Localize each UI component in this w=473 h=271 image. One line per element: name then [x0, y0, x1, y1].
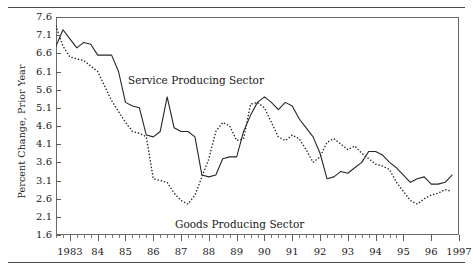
x-axis-minor-tick-mark — [258, 235, 259, 238]
figure-bottom-rule — [8, 262, 465, 263]
x-axis-minor-tick-mark — [390, 235, 391, 238]
x-axis-tick-mark — [320, 235, 321, 241]
y-axis-tick-mark — [56, 72, 61, 73]
plot-lines — [56, 17, 459, 235]
x-axis-tick-mark — [153, 235, 154, 241]
x-axis-tick-labels: 1983848586878889909192939495961997 — [0, 247, 473, 261]
x-axis-minor-tick-mark — [112, 235, 113, 238]
x-axis-minor-tick-mark — [167, 235, 168, 238]
x-axis-minor-tick-mark — [160, 235, 161, 238]
x-axis-tick-label: 93 — [341, 247, 354, 257]
y-axis-tick-labels: 1.62.12.63.13.64.14.65.15.66.16.67.17.6 — [14, 0, 52, 271]
y-axis-tick-mark — [56, 35, 61, 36]
x-axis-minor-tick-mark — [299, 235, 300, 238]
y-axis-tick-label: 4.6 — [18, 121, 52, 131]
x-axis-minor-tick-mark — [56, 235, 57, 238]
y-axis-tick-label: 4.1 — [18, 139, 52, 149]
x-axis-minor-tick-mark — [84, 235, 85, 238]
x-axis-tick-label: 94 — [369, 247, 382, 257]
x-axis-tick-mark — [237, 235, 238, 241]
x-axis-minor-tick-mark — [91, 235, 92, 238]
y-axis-tick-mark — [56, 17, 61, 18]
x-axis-tick-mark — [459, 235, 460, 241]
x-axis-minor-tick-mark — [119, 235, 120, 238]
x-axis-minor-tick-mark — [306, 235, 307, 238]
y-axis-tick-mark — [56, 53, 61, 54]
x-axis-minor-tick-mark — [216, 235, 217, 238]
x-axis-tick-mark — [209, 235, 210, 241]
y-axis-tick-label: 3.6 — [18, 157, 52, 167]
x-axis-minor-tick-mark — [355, 235, 356, 238]
x-axis-tick-mark — [264, 235, 265, 241]
x-axis-tick-label: 95 — [397, 247, 410, 257]
x-axis-minor-tick-mark — [369, 235, 370, 238]
x-axis-tick-mark — [376, 235, 377, 241]
x-axis-tick-label: 96 — [425, 247, 438, 257]
x-axis-tick-label: 1983 — [57, 247, 82, 257]
x-axis-minor-tick-mark — [341, 235, 342, 238]
y-axis-tick-label: 7.1 — [18, 30, 52, 40]
x-axis-tick-label: 85 — [119, 247, 132, 257]
x-axis-minor-tick-mark — [244, 235, 245, 238]
x-axis-minor-tick-mark — [223, 235, 224, 238]
x-axis-tick-label: 1997 — [446, 247, 471, 257]
x-axis-tick-mark — [181, 235, 182, 241]
x-axis-tick-mark — [403, 235, 404, 241]
x-axis-minor-tick-mark — [271, 235, 272, 238]
x-axis-tick-label: 88 — [202, 247, 215, 257]
x-axis-tick-mark — [98, 235, 99, 241]
x-axis-tick-label: 86 — [147, 247, 160, 257]
x-axis-minor-tick-mark — [362, 235, 363, 238]
x-axis-tick-mark — [125, 235, 126, 241]
y-axis-tick-mark — [56, 108, 61, 109]
y-axis-tick-mark — [56, 217, 61, 218]
x-axis-tick-mark — [431, 235, 432, 241]
x-axis-minor-tick-mark — [278, 235, 279, 238]
x-axis-tick-label: 90 — [258, 247, 271, 257]
x-axis-minor-tick-mark — [313, 235, 314, 238]
series-label-service: Service Producing Sector — [128, 75, 264, 86]
x-axis-minor-tick-mark — [285, 235, 286, 238]
y-axis-tick-label: 1.6 — [18, 230, 52, 240]
x-axis-minor-tick-mark — [77, 235, 78, 238]
y-axis-tick-label: 6.1 — [18, 67, 52, 77]
x-axis-minor-tick-mark — [202, 235, 203, 238]
x-axis-minor-tick-mark — [188, 235, 189, 238]
series-line-goods-producing-sector — [56, 26, 452, 204]
y-axis-tick-mark — [56, 126, 61, 127]
x-axis-minor-tick-mark — [334, 235, 335, 238]
y-axis-tick-label: 2.6 — [18, 194, 52, 204]
y-axis-tick-mark — [56, 199, 61, 200]
x-axis-tick-label: 84 — [91, 247, 104, 257]
x-axis-minor-tick-mark — [396, 235, 397, 238]
x-axis-minor-tick-mark — [230, 235, 231, 238]
y-axis-tick-label: 3.1 — [18, 176, 52, 186]
x-axis-tick-mark — [70, 235, 71, 241]
x-axis-tick-mark — [292, 235, 293, 241]
y-axis-tick-label: 6.6 — [18, 48, 52, 58]
x-axis-tick-label: 89 — [230, 247, 243, 257]
y-axis-tick-label: 5.1 — [18, 103, 52, 113]
x-axis-minor-tick-mark — [105, 235, 106, 238]
y-axis-tick-mark — [56, 144, 61, 145]
y-axis-tick-mark — [56, 162, 61, 163]
x-axis-minor-tick-mark — [63, 235, 64, 238]
x-axis-minor-tick-mark — [195, 235, 196, 238]
x-axis-tick-label: 91 — [286, 247, 299, 257]
x-axis-tick-label: 87 — [175, 247, 188, 257]
x-axis-minor-tick-mark — [383, 235, 384, 238]
y-axis-tick-label: 5.6 — [18, 85, 52, 95]
y-axis-tick-mark — [56, 181, 61, 182]
x-axis-tick-label: 92 — [314, 247, 327, 257]
x-axis-tick-mark — [348, 235, 349, 241]
x-axis-minor-tick-mark — [139, 235, 140, 238]
figure-top-rule — [8, 7, 465, 8]
x-axis-minor-tick-mark — [327, 235, 328, 238]
x-axis-minor-tick-mark — [146, 235, 147, 238]
figure-chart: Percent Change, Prior Year 1.62.12.63.13… — [0, 0, 473, 271]
series-label-goods: Goods Producing Sector — [175, 219, 304, 230]
y-axis-tick-label: 7.6 — [18, 12, 52, 22]
x-axis-minor-tick-mark — [132, 235, 133, 238]
x-axis-minor-tick-mark — [174, 235, 175, 238]
y-axis-tick-label: 2.1 — [18, 212, 52, 222]
